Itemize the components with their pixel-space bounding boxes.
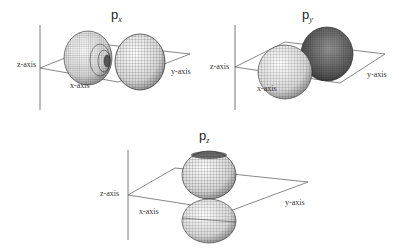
py-title: py bbox=[302, 7, 313, 24]
px-z-axis-label: z-axis bbox=[17, 60, 36, 69]
pz-y-axis-label: y-axis bbox=[285, 198, 305, 207]
px-lobe-right bbox=[115, 34, 165, 90]
py-y-axis-label: y-axis bbox=[367, 70, 387, 79]
px-panel: px z-axis x-axis y-axis bbox=[17, 7, 191, 110]
pz-z-axis-label: z-axis bbox=[100, 189, 119, 198]
pz-lobe-top bbox=[182, 151, 236, 199]
py-panel: py z-axis x-axis y-axis bbox=[210, 7, 387, 110]
px-title: px bbox=[111, 7, 122, 24]
px-lobe-left bbox=[64, 31, 112, 85]
px-x-axis-label: x-axis bbox=[70, 81, 90, 90]
pz-title: pz bbox=[199, 128, 210, 145]
pz-panel: pz z-axis x-axis y-axis bbox=[100, 128, 308, 243]
pz-x-axis-label: x-axis bbox=[139, 207, 159, 216]
pz-lobe-bottom bbox=[182, 199, 236, 243]
px-y-axis-label: y-axis bbox=[171, 67, 191, 76]
orbital-diagram: px z-axis x-axis y-axis py z-axis x-axis… bbox=[0, 0, 399, 252]
py-x-axis-label: x-axis bbox=[257, 84, 277, 93]
diagram-canvas: px z-axis x-axis y-axis py z-axis x-axis… bbox=[0, 0, 399, 252]
py-z-axis-label: z-axis bbox=[210, 62, 229, 71]
